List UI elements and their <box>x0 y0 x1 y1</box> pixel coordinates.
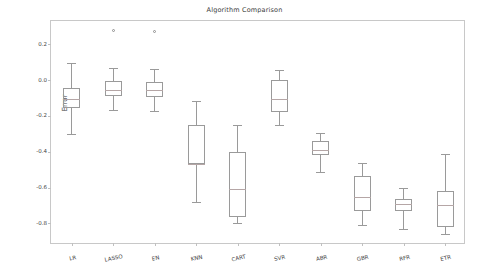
x-tick-label-en: EN <box>132 250 178 265</box>
x-tick-mark <box>113 243 114 246</box>
cap-upper <box>441 154 450 155</box>
plot-area: Error 0.20.0-0.2-0.4-0.6-0.8 LRLASSOENKN… <box>50 20 465 244</box>
whisker-upper <box>445 154 446 191</box>
cap-lower <box>358 225 367 226</box>
whisker-lower <box>403 211 404 228</box>
whisker-upper <box>320 133 321 141</box>
boxplot-etr[interactable] <box>437 21 454 243</box>
outlier-marker <box>112 29 115 32</box>
cap-lower <box>441 234 450 235</box>
y-tick-label: -0.8 <box>29 221 47 227</box>
x-tick-label-cart: CART <box>215 250 261 265</box>
median-line <box>105 90 122 91</box>
x-tick-mark <box>445 243 446 246</box>
cap-upper <box>192 101 201 102</box>
x-tick-mark <box>404 243 405 246</box>
cap-upper <box>275 70 284 71</box>
whisker-upper <box>237 125 238 152</box>
x-tick-label-abr: ABR <box>298 250 344 265</box>
cap-lower <box>150 111 159 112</box>
cap-upper <box>67 63 76 64</box>
whisker-lower <box>113 96 114 109</box>
whisker-upper <box>71 63 72 88</box>
whisker-lower <box>196 164 197 202</box>
box-iqr <box>395 199 412 212</box>
whisker-lower <box>71 108 72 134</box>
cap-lower <box>192 202 201 203</box>
outlier-marker <box>153 30 156 33</box>
y-tick-label: -0.4 <box>29 149 47 155</box>
median-line <box>229 189 246 190</box>
x-tick-label-rfr: RFR <box>381 250 427 265</box>
x-tick-mark <box>279 243 280 246</box>
y-tick-mark <box>48 44 51 45</box>
cap-upper <box>399 188 408 189</box>
cap-upper <box>316 133 325 134</box>
x-tick-label-svr: SVR <box>257 250 303 265</box>
whisker-upper <box>403 188 404 199</box>
cap-lower <box>109 110 118 111</box>
boxplot-abr[interactable] <box>312 21 329 243</box>
boxplot-knn[interactable] <box>188 21 205 243</box>
whisker-upper <box>279 70 280 80</box>
whisker-lower <box>320 155 321 172</box>
cap-lower <box>399 229 408 230</box>
cap-lower <box>316 172 325 173</box>
x-tick-label-lr: LR <box>49 250 95 265</box>
y-tick-mark <box>48 188 51 189</box>
x-tick-mark <box>321 243 322 246</box>
box-iqr <box>229 152 246 217</box>
whisker-upper <box>154 69 155 82</box>
y-tick-mark <box>48 80 51 81</box>
boxplot-cart[interactable] <box>229 21 246 243</box>
x-tick-label-knn: KNN <box>174 250 220 265</box>
x-tick-label-etr: ETR <box>423 250 469 265</box>
boxplot-gbr[interactable] <box>354 21 371 243</box>
median-line <box>271 99 288 100</box>
chart-title: Algorithm Comparison <box>0 6 489 14</box>
boxplot-en[interactable] <box>146 21 163 243</box>
median-line <box>188 164 205 165</box>
y-tick-label: -0.2 <box>29 113 47 119</box>
median-line <box>437 205 454 206</box>
cap-lower <box>233 223 242 224</box>
whisker-upper <box>113 68 114 81</box>
whisker-upper <box>196 101 197 126</box>
y-tick-mark <box>48 116 51 117</box>
x-tick-mark <box>72 243 73 246</box>
y-tick-label: 0.0 <box>29 78 47 84</box>
x-tick-label-lasso: LASSO <box>91 250 137 265</box>
x-tick-mark <box>155 243 156 246</box>
y-tick-mark <box>48 223 51 224</box>
y-tick-label: -0.6 <box>29 185 47 191</box>
x-tick-label-gbr: GBR <box>340 250 386 265</box>
boxplot-lr[interactable] <box>63 21 80 243</box>
box-iqr <box>188 125 205 164</box>
whisker-upper <box>362 163 363 176</box>
box-iqr <box>437 191 454 227</box>
cap-upper <box>358 163 367 164</box>
whisker-lower <box>154 97 155 111</box>
median-line <box>312 150 329 151</box>
median-line <box>395 204 412 205</box>
median-line <box>146 90 163 91</box>
cap-lower <box>275 125 284 126</box>
cap-upper <box>150 69 159 70</box>
x-tick-mark <box>196 243 197 246</box>
box-iqr <box>312 141 329 154</box>
boxplot-rfr[interactable] <box>395 21 412 243</box>
box-iqr <box>354 176 371 211</box>
boxplot-svr[interactable] <box>271 21 288 243</box>
cap-lower <box>67 134 76 135</box>
whisker-lower <box>445 227 446 235</box>
boxplot-lasso[interactable] <box>105 21 122 243</box>
figure-canvas: Algorithm Comparison Error 0.20.0-0.2-0.… <box>0 0 489 274</box>
cap-upper <box>109 68 118 69</box>
median-line <box>354 197 371 198</box>
box-iqr <box>271 80 288 112</box>
y-tick-label: 0.2 <box>29 42 47 48</box>
cap-upper <box>233 125 242 126</box>
y-tick-mark <box>48 152 51 153</box>
whisker-lower <box>362 211 363 225</box>
median-line <box>63 99 80 100</box>
